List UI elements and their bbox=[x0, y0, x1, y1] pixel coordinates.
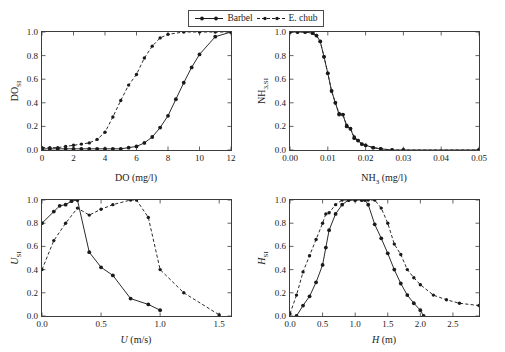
x-tick-label: 10 bbox=[195, 154, 204, 163]
x-tick-label: 1.0 bbox=[350, 320, 361, 329]
x-tick-label: 8 bbox=[166, 154, 171, 163]
x-tick-label: 0.0 bbox=[36, 320, 47, 329]
plot-area-depth bbox=[289, 199, 480, 317]
x-tick-label: 4 bbox=[103, 154, 108, 163]
x-axis-title-do: DO (mg/l) bbox=[115, 173, 157, 183]
x-tick-label: 0.04 bbox=[433, 154, 449, 163]
x-tick-label: 0.0 bbox=[284, 320, 295, 329]
x-tick-label: 12 bbox=[227, 154, 236, 163]
legend-label-barbel: Barbel bbox=[227, 14, 252, 24]
x-tick-label: 0.02 bbox=[358, 154, 374, 163]
x-tick-label: 0.01 bbox=[320, 154, 336, 163]
y-axis-title-depth: HSI bbox=[255, 199, 271, 317]
x-tick-label: 0.00 bbox=[282, 154, 298, 163]
plot-area-do bbox=[41, 31, 232, 151]
x-tick-label: 0.05 bbox=[471, 154, 487, 163]
x-axis-title-depth: H (m) bbox=[372, 335, 396, 345]
plot-curves-depth bbox=[290, 200, 479, 316]
x-tick-label: 1.5 bbox=[214, 320, 225, 329]
x-tick-label: 6 bbox=[134, 154, 139, 163]
legend-label-echub: E. chub bbox=[289, 14, 318, 24]
legend: Barbel E. chub bbox=[188, 10, 324, 27]
x-axis-title-velocity: U (m/s) bbox=[121, 335, 152, 345]
x-tick-label: 0 bbox=[40, 154, 45, 163]
legend-entry-echub: E. chub bbox=[256, 14, 318, 24]
x-tick-label: 0.5 bbox=[317, 320, 328, 329]
x-tick-label: 1.5 bbox=[382, 320, 393, 329]
legend-entry-barbel: Barbel bbox=[194, 14, 252, 24]
legend-dashed-line-icon bbox=[256, 14, 286, 23]
x-tick-label: 2.0 bbox=[415, 320, 426, 329]
y-axis-title-do: DOSI bbox=[8, 31, 24, 151]
x-tick-label: 1.0 bbox=[155, 320, 166, 329]
plot-area-velocity bbox=[41, 199, 232, 317]
plot-curves-velocity bbox=[42, 200, 231, 316]
plot-curves-do bbox=[42, 32, 231, 150]
x-tick-label: 2 bbox=[71, 154, 76, 163]
x-tick-label: 0.5 bbox=[95, 320, 106, 329]
figure-root: Barbel E. chub 024681012 0.00.20.40.60.8… bbox=[0, 0, 505, 352]
y-axis-title-nh3: NH3,SI bbox=[255, 31, 271, 151]
y-axis-title-velocity: USI bbox=[8, 199, 24, 317]
x-tick-label: 2.5 bbox=[447, 320, 458, 329]
legend-solid-line-icon bbox=[194, 14, 224, 23]
plot-area-nh3 bbox=[289, 31, 480, 151]
x-tick-label: 0.03 bbox=[396, 154, 412, 163]
x-axis-title-nh3: NH3 (mg/l) bbox=[361, 173, 406, 186]
plot-curves-nh3 bbox=[290, 32, 479, 150]
